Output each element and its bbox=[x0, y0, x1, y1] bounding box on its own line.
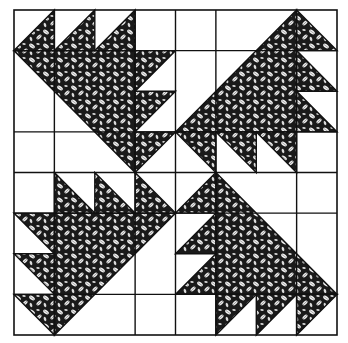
small-leaf-triangle bbox=[54, 173, 94, 214]
small-leaf-triangle bbox=[176, 213, 216, 254]
small-leaf-triangle bbox=[176, 173, 216, 214]
small-leaf-triangle bbox=[14, 254, 54, 295]
quadrant-bottom-right bbox=[176, 173, 338, 336]
small-leaf-triangle bbox=[135, 51, 175, 92]
small-leaf-triangle bbox=[176, 132, 216, 173]
large-leaf-triangle bbox=[216, 173, 337, 295]
small-leaf-triangle bbox=[297, 91, 337, 132]
quadrant-top-left bbox=[14, 10, 176, 173]
small-leaf-triangle bbox=[135, 173, 175, 214]
small-leaf-triangle bbox=[14, 294, 54, 335]
small-leaf-triangle bbox=[135, 91, 175, 132]
quadrant-bottom-left bbox=[14, 173, 176, 336]
small-leaf-triangle bbox=[95, 10, 135, 51]
small-leaf-triangle bbox=[14, 213, 54, 254]
small-leaf-triangle bbox=[176, 254, 216, 295]
small-leaf-triangle bbox=[216, 294, 256, 335]
quilt-block-illustration bbox=[0, 0, 348, 343]
quadrant-top-right bbox=[176, 10, 338, 173]
small-leaf-triangle bbox=[216, 132, 256, 173]
small-leaf-triangle bbox=[297, 10, 337, 51]
large-leaf-triangle bbox=[176, 10, 297, 132]
large-leaf-triangle bbox=[54, 213, 175, 335]
small-leaf-triangle bbox=[135, 132, 175, 173]
small-leaf-triangle bbox=[54, 10, 94, 51]
small-leaf-triangle bbox=[297, 51, 337, 92]
small-leaf-triangle bbox=[256, 132, 296, 173]
small-leaf-triangle bbox=[95, 173, 135, 214]
small-leaf-triangle bbox=[297, 294, 337, 335]
small-leaf-triangle bbox=[14, 10, 54, 51]
small-leaf-triangle bbox=[256, 294, 296, 335]
large-leaf-triangle bbox=[14, 51, 135, 173]
